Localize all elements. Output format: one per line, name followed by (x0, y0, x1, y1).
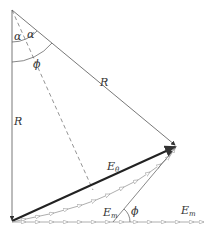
r-left-label: R (13, 115, 22, 128)
geometry-diagram: α α ϕ R R Eθ Em ϕ Em (0, 0, 208, 233)
phi-reference-line (113, 147, 176, 222)
e-theta-vector (12, 147, 175, 221)
e-m-right-label: Em (180, 204, 196, 218)
r-right-label: R (99, 76, 108, 89)
slanted-radius-line (12, 10, 175, 145)
e-theta-label: Eθ (106, 160, 120, 174)
alpha-left-label: α (14, 30, 22, 43)
phi-bottom-label: ϕ (131, 205, 139, 218)
e-m-lower-label: Em (102, 206, 118, 220)
alpha-right-label: α (27, 28, 35, 41)
phi-top-label: ϕ (33, 58, 41, 71)
phi-arc (12, 43, 52, 62)
dashed-bisector-line (12, 10, 93, 190)
phi-bottom-arc (124, 209, 130, 222)
